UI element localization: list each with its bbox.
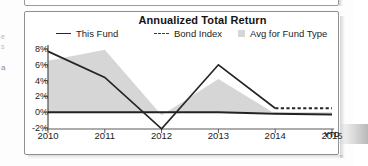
gutter-text-fragment: s xyxy=(1,43,4,50)
panel-above-partial xyxy=(24,0,339,6)
annualized-total-return-chart-panel: Annualized Total Return This Fund Bond I… xyxy=(24,11,339,155)
chart-plot-svg xyxy=(25,12,340,156)
series-avg-for-fund-type-area xyxy=(48,50,332,116)
x-axis-tick-label: 2011 xyxy=(95,130,115,141)
panel-above-shadow xyxy=(339,0,343,6)
x-axis-tick-label: 2013 xyxy=(208,130,229,141)
x-axis-tick-label: 2014 xyxy=(265,130,286,141)
y-axis-tick-label: 6% xyxy=(22,60,48,70)
gutter-text-fragment: e xyxy=(1,33,5,40)
y-axis-tick-label: 8% xyxy=(22,44,48,54)
y-axis-tick-label: 4% xyxy=(22,76,48,86)
x-axis-tick-label: 2010 xyxy=(37,130,58,141)
plot-area: 8%6%4%2%0%-2% 201020112012201320142015 Y… xyxy=(25,12,340,156)
y-axis-tick-label: 2% xyxy=(22,91,48,101)
gutter-text-fragment: a xyxy=(1,64,5,72)
x-axis-ytd-label: YTD xyxy=(324,130,340,139)
x-axis-tick-label: 2012 xyxy=(151,130,172,141)
y-axis-tick-label: 0% xyxy=(22,107,48,117)
